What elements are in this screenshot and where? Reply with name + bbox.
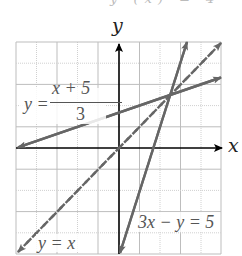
linear-equations-graph: y (x) = 4	[0, 0, 242, 256]
clipped-heading-fragment: y (x) = 4	[110, 0, 220, 6]
equation-label-line2: 3x − y = 5	[138, 212, 214, 233]
equation-denominator: 3	[76, 104, 85, 125]
equation-label-line3: y = x	[38, 233, 75, 254]
fraction-bar	[50, 102, 122, 103]
equation-lhs: y =	[24, 94, 49, 115]
equation-numerator: x + 5	[52, 78, 90, 99]
y-axis-label: y	[112, 14, 123, 36]
x-axis-label: x	[228, 134, 239, 156]
